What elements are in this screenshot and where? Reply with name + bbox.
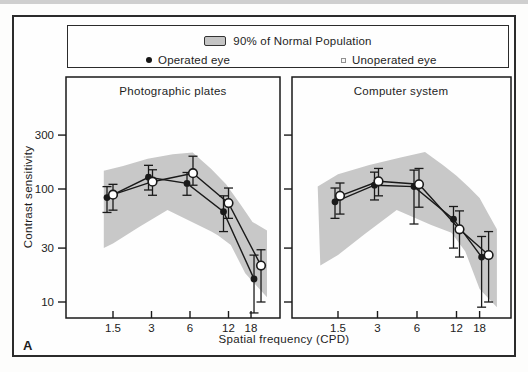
- y-axis-title: Contrast sensitivity: [22, 146, 34, 249]
- x-tick-label: 18: [473, 322, 486, 334]
- x-tick-label: 3: [148, 322, 154, 334]
- x-tick-label: 6: [414, 322, 420, 334]
- legend: 90% of Normal Population Operated eye Un…: [67, 25, 509, 68]
- y-tick-label: 30: [41, 242, 54, 254]
- legend-operated-item: Operated eye: [146, 53, 230, 67]
- operated-eye-point: [450, 216, 457, 223]
- population-band-swatch-icon: [204, 36, 226, 46]
- y-tick-label: 10: [41, 296, 54, 308]
- operated-eye-point: [220, 208, 227, 215]
- operated-eye-point: [251, 276, 258, 283]
- unoperated-eye-point: [455, 225, 464, 234]
- unoperated-eye-point: [109, 190, 118, 199]
- unoperated-eye-point: [189, 169, 198, 178]
- panel-title-photographic-plates: Photographic plates: [119, 85, 226, 97]
- x-tick-label: 1.5: [105, 322, 121, 334]
- normal-population-band: [318, 152, 497, 307]
- legend-unoperated-label: Unoperated eye: [352, 54, 437, 66]
- legend-unoperated-item: Unoperated eye: [341, 53, 437, 67]
- x-tick-label: 6: [187, 322, 193, 334]
- x-tick-label: 12: [450, 322, 463, 334]
- panel-1: 1.5361218: [284, 77, 511, 334]
- open-circle-icon: [341, 58, 346, 63]
- legend-band-row: 90% of Normal Population: [68, 33, 508, 49]
- x-axis-title: Spatial frequency (CPD): [219, 333, 350, 345]
- y-tick-label: 100: [35, 183, 54, 195]
- x-tick-label: 3: [374, 322, 380, 334]
- unoperated-eye-point: [374, 177, 383, 186]
- unoperated-eye-point: [148, 177, 157, 186]
- unoperated-eye-point: [415, 180, 424, 189]
- panel-title-computer-system: Computer system: [354, 85, 449, 97]
- unoperated-eye-point: [224, 199, 233, 208]
- figure-page: 30010030101.53612181.5361218 90% of Norm…: [0, 0, 528, 372]
- unoperated-eye-point: [484, 251, 493, 260]
- unoperated-eye-point: [336, 192, 345, 201]
- panel-0: 30010030101.5361218: [35, 77, 280, 334]
- operated-eye-point: [184, 180, 191, 187]
- legend-band-label: 90% of Normal Population: [233, 35, 371, 47]
- figure-panel-label: A: [23, 338, 33, 353]
- filled-circle-icon: [146, 57, 152, 63]
- legend-operated-label: Operated eye: [158, 54, 230, 66]
- unoperated-eye-point: [257, 261, 266, 270]
- y-tick-label: 300: [35, 129, 54, 141]
